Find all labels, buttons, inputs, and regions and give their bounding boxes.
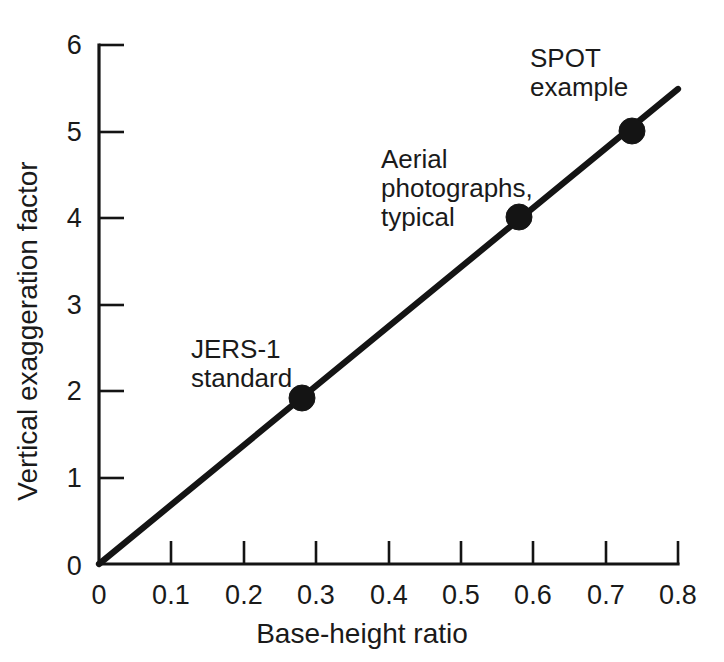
x-tick-label-0.5: 0.5 [442, 580, 480, 611]
data-point-jers[interactable] [289, 385, 315, 411]
y-tick-label-6: 6 [48, 30, 82, 61]
x-tick-label-0.4: 0.4 [370, 580, 408, 611]
annotation-spot-example: SPOT example [530, 44, 628, 102]
x-tick-label-0.6: 0.6 [514, 580, 552, 611]
x-axis-ticks [171, 541, 678, 564]
y-tick-label-5: 5 [48, 117, 82, 148]
x-axis-title: Base-height ratio [256, 618, 468, 650]
y-tick-label-1: 1 [48, 463, 82, 494]
x-tick-label-0.8: 0.8 [659, 580, 697, 611]
x-tick-label-0: 0 [91, 580, 106, 611]
y-axis-ticks [99, 45, 124, 478]
x-tick-label-0.2: 0.2 [225, 580, 263, 611]
x-tick-label-0.7: 0.7 [587, 580, 625, 611]
x-tick-label-0.3: 0.3 [297, 580, 335, 611]
y-tick-label-2: 2 [48, 376, 82, 407]
y-axis-title: Vertical exaggeration factor [12, 121, 44, 541]
y-tick-label-4: 4 [48, 203, 82, 234]
y-tick-label-0: 0 [48, 551, 82, 582]
annotation-aerial-photographs-typical: Aerial photographs, typical [381, 145, 533, 232]
annotation-jers-1-standard: JERS-1 standard [191, 335, 292, 393]
y-tick-label-3: 3 [48, 290, 82, 321]
x-tick-label-0.1: 0.1 [152, 580, 190, 611]
data-point-spot[interactable] [619, 118, 645, 144]
chart-figure: 6 5 4 3 2 1 0 0 0.1 0.2 0.3 0.4 0.5 0.6 … [0, 0, 724, 662]
